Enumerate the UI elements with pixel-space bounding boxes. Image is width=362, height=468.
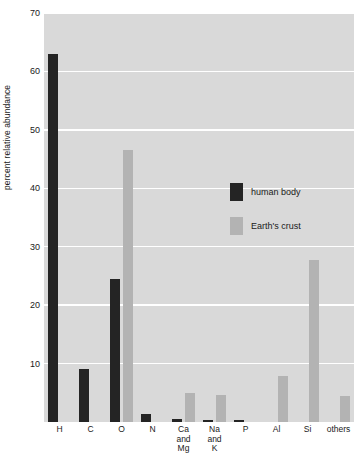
bar <box>185 393 195 422</box>
bar <box>203 420 213 422</box>
gridline <box>44 12 354 14</box>
y-tick-label: 70 <box>6 8 40 18</box>
x-axis-labels: HCONCaandMgNaandKPAlSiothers <box>44 425 354 468</box>
x-tick-label: others <box>317 425 361 435</box>
legend-swatch-icon <box>230 183 243 201</box>
legend-swatch-icon <box>230 217 243 235</box>
y-tick-label: 50 <box>6 125 40 135</box>
y-axis-ticks: 10203040506070 <box>0 13 40 422</box>
bar <box>79 369 89 422</box>
y-tick-label: 40 <box>6 183 40 193</box>
bar <box>110 279 120 422</box>
bar <box>123 150 133 422</box>
bar <box>278 376 288 422</box>
x-tick-label-line: K <box>193 444 237 454</box>
legend-label: Earth's crust <box>251 221 301 231</box>
bar <box>172 419 182 423</box>
gridline <box>44 71 354 73</box>
plot-area: human body Earth's crust <box>44 13 354 422</box>
x-tick-label-line: others <box>317 425 361 435</box>
gridline <box>44 129 354 131</box>
y-tick-label: 30 <box>6 242 40 252</box>
y-tick-label: 60 <box>6 66 40 76</box>
y-tick-label: 20 <box>6 300 40 310</box>
bar <box>141 414 151 422</box>
bar <box>340 396 350 422</box>
legend-label: human body <box>251 187 301 197</box>
bar <box>48 54 58 422</box>
bar <box>234 420 244 422</box>
legend-item-earths-crust: Earth's crust <box>230 217 350 235</box>
legend: human body Earth's crust <box>230 183 350 251</box>
y-tick-label: 10 <box>6 359 40 369</box>
gridline <box>44 304 354 306</box>
bar <box>216 395 226 422</box>
gridline <box>44 363 354 365</box>
legend-item-human-body: human body <box>230 183 350 201</box>
bar <box>309 260 319 422</box>
bar-chart: percent relative abundance 1020304050607… <box>0 0 362 468</box>
